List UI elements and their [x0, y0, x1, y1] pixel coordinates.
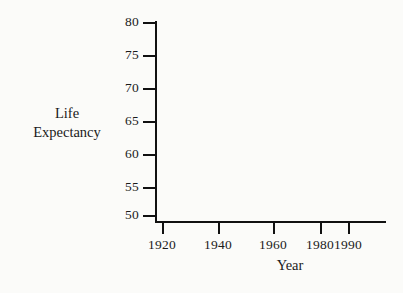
y-axis-tick-label: 50	[125, 208, 139, 222]
y-axis-tick	[143, 55, 155, 57]
plot-area	[157, 21, 386, 221]
x-axis-tick	[348, 223, 350, 234]
y-axis-tick-label: 70	[125, 81, 139, 95]
y-axis-tick	[143, 215, 155, 217]
x-axis-tick-label: 1940	[204, 238, 232, 252]
y-axis-tick	[143, 121, 155, 123]
x-axis-line	[155, 221, 386, 223]
chart-container: 80757065605550 19201940196019801990 Life…	[0, 0, 403, 293]
y-axis-tick	[143, 88, 155, 90]
y-axis-tick-label: 60	[125, 147, 139, 161]
y-axis-tick-label: 55	[125, 180, 139, 194]
y-axis-tick	[143, 22, 155, 24]
y-axis-tick	[143, 154, 155, 156]
y-axis-title: Life Expectancy	[4, 104, 130, 141]
x-axis-tick-label: 1960	[259, 238, 287, 252]
y-axis-tick	[143, 187, 155, 189]
y-axis-tick-label: 75	[125, 48, 139, 62]
x-axis-tick	[320, 223, 322, 234]
x-axis-tick	[218, 223, 220, 234]
x-axis-title: Year	[232, 258, 348, 273]
x-axis-tick-label: 1920	[148, 238, 176, 252]
x-axis-tick-label: 1980	[306, 238, 334, 252]
x-axis-tick	[162, 223, 164, 234]
y-axis-tick-label: 80	[125, 15, 139, 29]
x-axis-tick-label: 1990	[334, 238, 362, 252]
x-axis-tick	[273, 223, 275, 234]
